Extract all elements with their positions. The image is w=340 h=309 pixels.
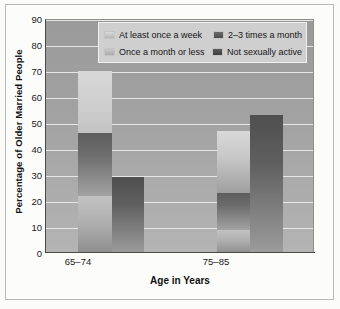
legend-label-2-3-month: 2–3 times a month	[228, 30, 302, 40]
x-tick-75-85: 75–85	[181, 256, 251, 267]
legend-item-2-3-times-a-month: 2–3 times a month	[214, 30, 302, 40]
legend-item-at-least-once-a-week: At least once a week	[105, 30, 214, 40]
bar-75-85-at-least-once-a-week	[217, 131, 250, 193]
legend-row-2: Once a month or less Not sexually active	[105, 43, 302, 60]
bar-65-74-not-sexually-active	[112, 177, 144, 252]
gridline-90	[46, 20, 313, 21]
legend-label-not-active: Not sexually active	[227, 47, 302, 57]
legend-swatch-month-or-less-icon	[105, 49, 114, 55]
legend-swatch-not-active-icon	[213, 49, 222, 55]
x-axis-title: Age in Years	[46, 275, 314, 286]
figure-container: 90 80 70 60 50 40 30 20 10 0 Percentage …	[0, 0, 340, 309]
x-axis-line	[45, 252, 315, 253]
y-tick-0: 0	[20, 249, 42, 258]
bar-75-85-2-3-times-a-month	[217, 193, 250, 230]
bar-65-74-2-3-times-a-month	[78, 133, 112, 196]
y-axis-line	[45, 19, 46, 253]
x-tick-65-74: 65–74	[43, 256, 113, 267]
legend-swatch-2-3-month-icon	[214, 32, 223, 38]
legend: At least once a week 2–3 times a month O…	[98, 22, 307, 63]
legend-label-month-or-less: Once a month or less	[119, 47, 205, 57]
legend-item-once-a-month-or-less: Once a month or less	[105, 47, 213, 57]
y-axis-title: Percentage of Older Married People	[13, 22, 24, 242]
legend-row-1: At least once a week 2–3 times a month	[105, 26, 302, 43]
legend-label-week: At least once a week	[119, 30, 202, 40]
bar-65-74-once-a-month-or-less	[78, 196, 112, 252]
bar-75-85-once-a-month-or-less	[217, 230, 250, 252]
bar-75-85-not-sexually-active	[250, 115, 283, 252]
legend-item-not-sexually-active: Not sexually active	[213, 47, 302, 57]
legend-swatch-week-icon	[105, 32, 114, 38]
